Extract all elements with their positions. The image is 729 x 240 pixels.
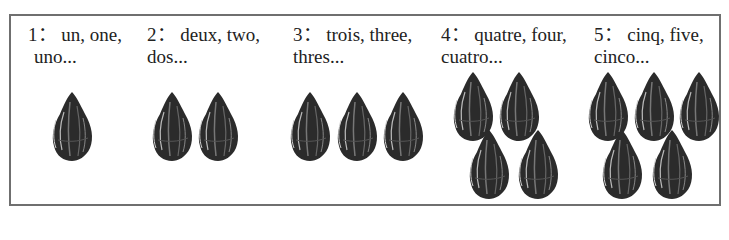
seed-icon [150,90,194,162]
group-2-line1: 2： deux, two, [147,24,260,46]
group-5-label: 5： cinq, five, cinco... [594,24,704,68]
seed-icon [516,128,560,200]
seed-icon [467,128,511,200]
group-4-line2: cuatro... [441,46,567,68]
group-1-line2: uno... [28,46,122,68]
seed-icon [50,90,94,162]
seed-icon [381,90,425,162]
group-3-label: 3： trois, three, thres... [293,24,412,68]
group-2-line2: dos... [147,46,260,68]
seed-icon [288,90,332,162]
seed-icon [600,128,644,200]
group-4-label: 4： quatre, four, cuatro... [441,24,567,68]
seed-icon [650,128,694,200]
group-3-line2: thres... [293,46,412,68]
group-1-line1: 1： un, one, [28,24,122,46]
group-1-label: 1： un, one, uno... [28,24,122,68]
seed-icon [196,90,240,162]
group-3-line1: 3： trois, three, [293,24,412,46]
group-5-line2: cinco... [594,46,704,68]
group-2-label: 2： deux, two, dos... [147,24,260,68]
group-5-line1: 5： cinq, five, [594,24,704,46]
group-4-line1: 4： quatre, four, [441,24,567,46]
seed-icon [335,90,379,162]
